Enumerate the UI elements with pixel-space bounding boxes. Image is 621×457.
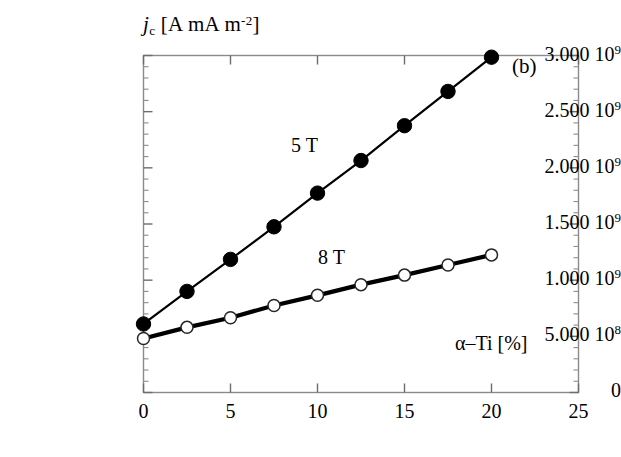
y-axis-unit-open: [A m: [155, 12, 204, 36]
data-point-8t: [268, 299, 280, 311]
y-tick-exponent: 9: [615, 266, 621, 281]
data-point-8t: [312, 289, 324, 301]
y-tick-mantissa: 2.000 10: [545, 154, 615, 176]
y-axis-unit-text: A m: [205, 12, 242, 36]
y-tick-label: 3.000 109: [493, 42, 621, 66]
data-point-5t: [267, 220, 281, 234]
series-label-5t: 5 T: [291, 134, 318, 157]
data-point-8t: [399, 269, 411, 281]
y-tick-label: 0: [493, 379, 621, 402]
x-tick-label: 15: [385, 400, 425, 423]
y-tick-mantissa: 5.000 10: [545, 323, 615, 345]
x-tick-label: 5: [211, 400, 251, 423]
y-tick-exponent: 9: [615, 98, 621, 113]
data-point-5t: [397, 119, 411, 133]
y-tick-label: 5.000 108: [493, 322, 621, 346]
y-tick-label: 2.500 109: [493, 98, 621, 122]
y-tick-mantissa: 3.000 10: [545, 42, 615, 64]
y-axis-unit-close: ]: [253, 12, 260, 36]
y-tick-exponent: 9: [615, 210, 621, 225]
x-tick-label: 20: [472, 400, 512, 423]
data-point-5t: [310, 186, 324, 200]
data-point-5t: [136, 317, 150, 331]
series-label-8t: 8 T: [318, 246, 345, 269]
x-tick-label: 25: [559, 400, 599, 423]
data-point-8t: [355, 279, 367, 291]
y-axis-title: jc [A mA m-2]: [143, 12, 260, 39]
y-tick-mantissa: 2.500 10: [545, 98, 615, 120]
x-tick-label: 0: [124, 400, 164, 423]
y-tick-exponent: 8: [615, 322, 621, 337]
y-tick-mantissa: 1.500 10: [545, 211, 615, 233]
data-point-5t: [441, 84, 455, 98]
data-point-8t: [442, 259, 454, 271]
data-point-5t: [180, 284, 194, 298]
y-tick-exponent: 9: [615, 154, 621, 169]
data-point-5t: [223, 252, 237, 266]
y-tick-mantissa: 0: [611, 379, 621, 401]
y-tick-exponent: 9: [615, 42, 621, 57]
y-tick-label: 1.000 109: [493, 266, 621, 290]
y-axis-unit-exponent: -2: [241, 13, 252, 28]
y-tick-mantissa: 1.000 10: [545, 267, 615, 289]
data-point-8t: [181, 321, 193, 333]
x-tick-label: 10: [298, 400, 338, 423]
data-point-8t: [225, 312, 237, 324]
data-point-8t: [486, 249, 498, 261]
data-point-5t: [354, 153, 368, 167]
y-tick-label: 2.000 109: [493, 154, 621, 178]
data-point-8t: [138, 333, 150, 345]
y-tick-label: 1.500 109: [493, 210, 621, 234]
figure-panel-b: jc [A mA m-2] (b) 5 T 8 T α–Ti [%] 05.00…: [0, 0, 621, 457]
